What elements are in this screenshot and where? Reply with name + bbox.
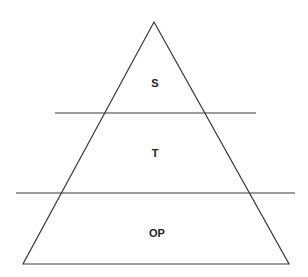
layer-label-top: S bbox=[151, 77, 158, 89]
pyramid-diagram: S T OP bbox=[0, 0, 308, 277]
layer-label-bottom: OP bbox=[149, 227, 165, 239]
layer-label-middle: T bbox=[152, 147, 159, 159]
